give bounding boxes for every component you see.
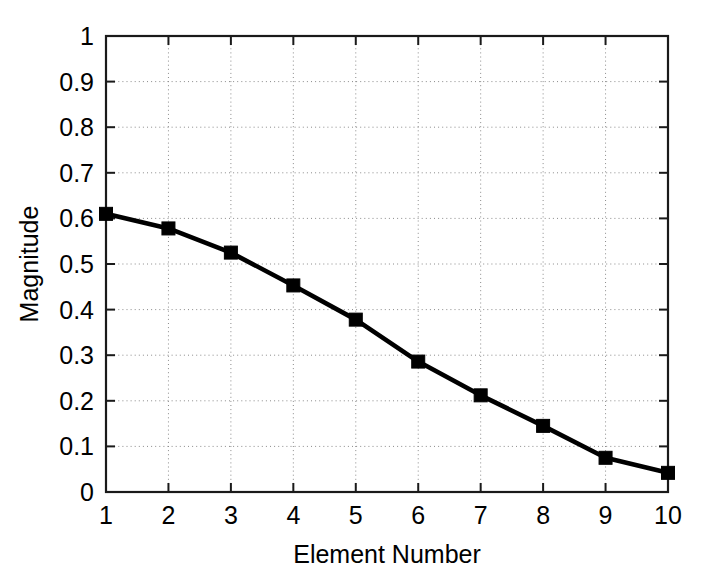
chart-figure: 00.10.20.30.40.50.60.70.80.91 1234567891…	[0, 0, 712, 578]
x-tick-label: 9	[599, 501, 613, 529]
x-tick-label: 5	[349, 501, 363, 529]
data-point-marker	[349, 313, 362, 326]
y-tick-label: 0.3	[59, 341, 94, 369]
data-point-marker	[287, 279, 300, 292]
y-tick-label: 0.7	[59, 159, 94, 187]
y-tick-label: 0.4	[59, 296, 94, 324]
plot-axes-frame	[106, 36, 668, 492]
x-tick-label: 8	[536, 501, 550, 529]
y-tick-label: 0.1	[59, 432, 94, 460]
x-tick-label: 4	[286, 501, 300, 529]
y-tick-label: 0.6	[59, 204, 94, 232]
y-tick-label: 0.2	[59, 387, 94, 415]
data-series-line	[106, 214, 668, 473]
data-point-marker	[599, 451, 612, 464]
data-point-marker	[662, 466, 675, 479]
line-chart: 00.10.20.30.40.50.60.70.80.91 1234567891…	[0, 0, 712, 578]
y-tick-label: 0.8	[59, 113, 94, 141]
x-axis-title: Element Number	[293, 540, 481, 568]
x-tick-label: 2	[161, 501, 175, 529]
x-tick-label: 7	[474, 501, 488, 529]
grid-lines	[106, 36, 668, 492]
x-axis-tick-labels: 12345678910	[99, 501, 682, 529]
x-tick-label: 10	[654, 501, 682, 529]
data-point-marker	[474, 389, 487, 402]
data-point-marker	[537, 419, 550, 432]
x-tick-label: 3	[224, 501, 238, 529]
data-point-marker	[412, 355, 425, 368]
y-tick-label: 0	[80, 478, 94, 506]
x-tick-label: 1	[99, 501, 113, 529]
y-tick-label: 1	[80, 22, 94, 50]
data-point-marker	[224, 246, 237, 259]
data-point-marker	[162, 222, 175, 235]
y-axis-title: Magnitude	[15, 206, 43, 323]
data-point-marker	[100, 207, 113, 220]
y-tick-label: 0.9	[59, 68, 94, 96]
y-tick-label: 0.5	[59, 250, 94, 278]
x-tick-label: 6	[411, 501, 425, 529]
y-axis-tick-labels: 00.10.20.30.40.50.60.70.80.91	[59, 22, 94, 506]
tick-marks	[106, 36, 668, 492]
